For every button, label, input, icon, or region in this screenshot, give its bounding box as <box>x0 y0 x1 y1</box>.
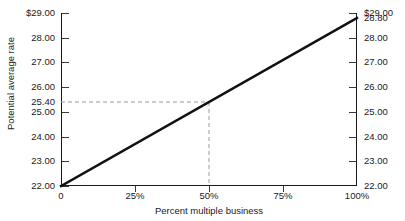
y-axis-left-tick-label: 26.00 <box>31 82 55 92</box>
y-axis-right-tick-label: 25.00 <box>364 107 388 117</box>
chart-container: $29.0028.0027.0026.0025.4025.0024.0023.0… <box>0 0 405 221</box>
y-axis-right-tick-labels: $29.0028.8028.0027.0026.0025.0024.0023.0… <box>364 13 405 186</box>
y-axis-left-tick-label: 28.00 <box>31 33 55 43</box>
x-axis-tick <box>209 186 210 192</box>
y-axis-left-tick-label: 27.00 <box>31 57 55 67</box>
x-axis-tick <box>283 186 284 192</box>
y-axis-left-tick-label: $29.00 <box>26 8 55 18</box>
x-axis-tick-label: 100% <box>345 190 369 202</box>
y-axis-left-tick-label: 25.00 <box>31 107 55 117</box>
x-axis-tick-labels: 025%50%75%100% <box>61 190 357 204</box>
plot-area <box>61 13 357 186</box>
y-axis-right-tick-label: 26.00 <box>364 82 388 92</box>
series-layer <box>61 13 357 186</box>
y-axis-right-tick-label: 23.00 <box>364 156 388 166</box>
y-axis-left-tick-label: 23.00 <box>31 156 55 166</box>
y-axis-left-tick-label: 22.00 <box>31 181 55 191</box>
x-axis-tick-label: 0 <box>58 190 63 202</box>
x-axis-title: Percent multiple business <box>61 205 357 217</box>
y-axis-title: Potential average rate <box>5 24 16 144</box>
y-axis-left-tick-label: 24.00 <box>31 132 55 142</box>
y-axis-right-tick-label: 27.00 <box>364 57 388 67</box>
x-axis-tick <box>135 186 136 192</box>
y-axis-right-tick-label: 28.80 <box>364 13 388 23</box>
y-axis-right-tick-label: 24.00 <box>364 132 388 142</box>
y-axis-right-tick-label: 28.00 <box>364 33 388 43</box>
